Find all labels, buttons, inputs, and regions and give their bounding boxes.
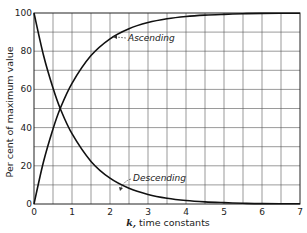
- y-tick-label: 80: [21, 46, 33, 56]
- y-tick-label: 20: [21, 161, 33, 171]
- descending-label: Descending: [133, 173, 186, 183]
- y-axis-ticks: 020406080100: [15, 8, 32, 209]
- x-tick-label: 3: [145, 207, 151, 217]
- x-tick-label: 1: [69, 207, 75, 217]
- x-tick-label: 6: [259, 207, 265, 217]
- x-tick-label: 7: [297, 207, 303, 217]
- x-axis-ticks: 01234567: [31, 207, 303, 217]
- y-tick-label: 60: [21, 84, 33, 94]
- y-tick-label: 40: [21, 123, 33, 133]
- x-axis-label-text: time constants: [136, 217, 210, 228]
- x-tick-label: 0: [31, 207, 37, 217]
- ascending-arrow: [116, 37, 126, 38]
- x-tick-label: 5: [221, 207, 227, 217]
- descending-arrowhead: [119, 187, 123, 191]
- x-axis-label: k, time constants: [126, 217, 210, 229]
- x-tick-label: 4: [183, 207, 189, 217]
- ascending-label: Ascending: [127, 33, 175, 43]
- y-tick-label: 100: [15, 8, 32, 18]
- x-tick-label: 2: [107, 207, 113, 217]
- x-axis-variable: k,: [126, 217, 136, 229]
- y-axis-label: Per cent of maximum value: [4, 46, 15, 177]
- exponential-chart: 020406080100 01234567 Ascending Descendi…: [0, 0, 307, 233]
